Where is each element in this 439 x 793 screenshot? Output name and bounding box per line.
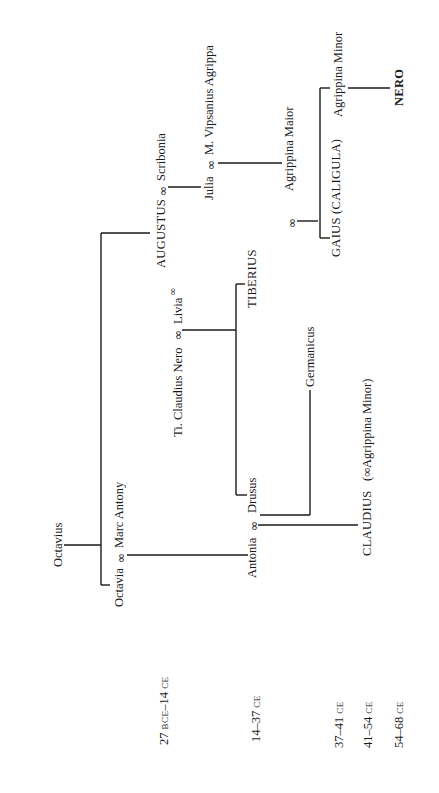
person-scribonia: Scribonia xyxy=(155,133,168,181)
marriage-symbol: ∞ xyxy=(172,330,184,340)
marriage-symbol: ∞ xyxy=(168,288,178,296)
person-marc-antony: Marc Antony xyxy=(113,482,126,548)
person-germanicus: Germanicus xyxy=(304,327,317,387)
person-antonia: Antonia xyxy=(246,538,259,578)
person-octavia: Octavia xyxy=(113,568,126,607)
marriage-symbol: ∞ xyxy=(205,160,217,170)
marriage-symbol: ∞ xyxy=(157,186,169,196)
reign-date-nero: 54–68 CE xyxy=(393,701,406,748)
person-agrippina-maior: Agrippina Maior xyxy=(283,107,296,191)
reign-date-augustus: 27 BCE–14 CE xyxy=(158,676,171,745)
marriage-symbol: ∞ xyxy=(248,521,260,531)
person-nero: NERO xyxy=(393,69,406,106)
person-ti-claudius-nero: Ti. Claudius Nero xyxy=(172,348,185,437)
claudius-marriage-note: (∞Agrippina Minor) xyxy=(361,379,374,481)
reign-date-claudius: 41–54 CE xyxy=(362,701,375,748)
person-augustus: AUGUSTUS xyxy=(155,199,168,268)
reign-date-gaius: 37–41 CE xyxy=(333,701,346,748)
marriage-symbol: ∞ xyxy=(115,553,127,563)
marriage-symbol: ∞ xyxy=(286,218,298,228)
reign-date-tiberius: 14–37 CE xyxy=(250,695,263,742)
person-agrippina-minor: Agrippina Minor xyxy=(332,32,345,117)
family-tree-diagram: Octavius Octavia ∞ Marc Antony AUGUSTUS … xyxy=(0,0,439,793)
person-tiberius: TIBERIUS xyxy=(246,249,259,308)
person-julia: Julia xyxy=(203,176,216,200)
person-drusus: Drusus xyxy=(246,478,259,513)
person-octavius: Octavius xyxy=(52,523,65,567)
person-livia: Livia xyxy=(172,298,185,324)
person-agrippa: M. Vipsanius Agrippa xyxy=(203,45,216,155)
person-gaius-caligula: GAIUS (CALIGULA) xyxy=(330,139,343,257)
person-claudius: CLAUDIUS xyxy=(361,490,374,556)
